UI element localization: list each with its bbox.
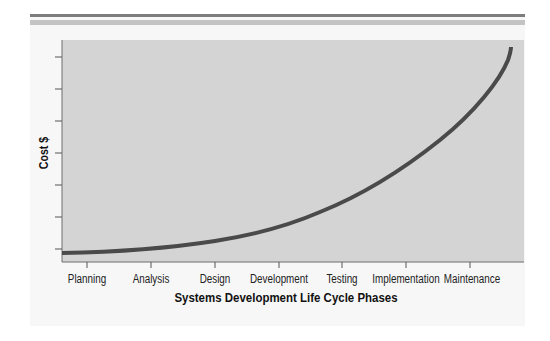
x-tick-label: Planning [68, 272, 106, 286]
x-tick-label: Development [250, 272, 308, 286]
x-tick-label: Analysis [133, 272, 170, 286]
y-ticks [55, 57, 62, 249]
x-axis-title: Systems Development Life Cycle Phases [174, 290, 397, 305]
x-tick-label: Design [200, 272, 231, 286]
plot-area [62, 40, 524, 262]
x-tick-label: Implementation [372, 272, 439, 286]
x-tick-label: Maintenance [444, 272, 500, 286]
x-ticks [87, 262, 470, 268]
x-tick-label: Testing [326, 272, 357, 286]
y-axis-title: Cost $ [37, 137, 51, 169]
